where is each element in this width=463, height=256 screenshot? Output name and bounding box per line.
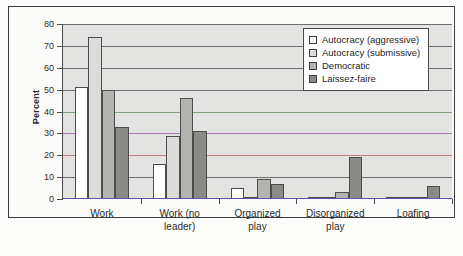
bar	[88, 37, 101, 199]
bar-group	[63, 24, 141, 199]
y-tick-label-60: 60	[44, 63, 54, 73]
legend-swatch-icon	[309, 36, 317, 44]
bar	[115, 127, 128, 199]
x-axis-label: Disorganized play	[292, 207, 378, 233]
x-axis-label: Work	[59, 207, 145, 220]
y-tick-label-10: 10	[44, 172, 54, 182]
bar	[349, 157, 362, 199]
legend-swatch-icon	[309, 49, 317, 57]
x-axis-label: Organized play	[215, 207, 301, 233]
x-axis-separator	[452, 199, 453, 204]
bar	[153, 164, 166, 199]
legend-item-label: Democratic	[322, 60, 370, 71]
y-tick-label-70: 70	[44, 41, 54, 51]
x-axis-separator	[219, 199, 220, 204]
y-tick-label-0: 0	[49, 194, 54, 204]
bar	[257, 179, 270, 199]
x-axis-baseline	[63, 198, 452, 199]
bar-group	[219, 24, 297, 199]
figure: Percent 01020304050607080 WorkWork (no l…	[0, 0, 463, 256]
legend-item-label: Autocracy (submissive)	[322, 47, 420, 58]
y-axis-title: Percent	[31, 72, 41, 142]
chart-plot-frame: Percent 01020304050607080 WorkWork (no l…	[8, 6, 455, 218]
legend-item-label: Autocracy (aggressive)	[322, 34, 419, 45]
legend-item: Democratic	[309, 59, 420, 72]
legend-item: Laissez-faire	[309, 72, 420, 85]
bar	[180, 98, 193, 199]
x-axis-label: Loafing	[370, 207, 456, 220]
x-axis-label: Work (no leader)	[137, 207, 223, 233]
legend-item-label: Laissez-faire	[322, 73, 376, 84]
legend-item: Autocracy (submissive)	[309, 46, 420, 59]
legend-item: Autocracy (aggressive)	[309, 33, 420, 46]
bar	[271, 184, 284, 199]
y-tick-label-20: 20	[44, 150, 54, 160]
bar	[75, 87, 88, 199]
bar	[193, 131, 206, 199]
y-tick-label-40: 40	[44, 107, 54, 117]
x-axis-separator	[374, 199, 375, 204]
legend: Autocracy (aggressive)Autocracy (submiss…	[303, 28, 429, 91]
legend-swatch-icon	[309, 62, 317, 70]
x-axis-separator	[296, 199, 297, 204]
y-tick-0	[57, 199, 63, 200]
bar	[166, 136, 179, 199]
y-tick-label-50: 50	[44, 85, 54, 95]
y-tick-label-30: 30	[44, 128, 54, 138]
bar	[102, 90, 115, 199]
bar-group	[141, 24, 219, 199]
y-tick-label-80: 80	[44, 19, 54, 29]
legend-swatch-icon	[309, 75, 317, 83]
x-axis-separator	[141, 199, 142, 204]
